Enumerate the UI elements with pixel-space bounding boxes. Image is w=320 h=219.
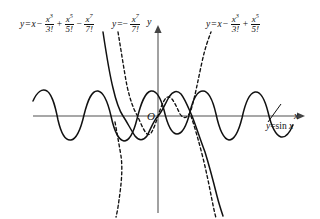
label-taylor7-op2: +: [57, 20, 62, 30]
label-taylor5-op2: +: [243, 20, 248, 30]
frac-denominator: 7!: [84, 24, 94, 34]
label-taylor5-op1: −: [223, 20, 228, 30]
frac-denominator: 7!: [130, 24, 140, 34]
y-axis-arrow: [154, 25, 161, 33]
label-taylor7-op3: −: [77, 20, 82, 30]
label-taylor7: y = x − x3 3! + x5 5! − x7 7!: [20, 14, 95, 35]
label-taylor5: y = x − x3 3! + x5 5!: [206, 14, 262, 35]
sine-label-leader: [268, 104, 281, 122]
frac-exponent: 7: [136, 12, 139, 19]
frac-exponent: 3: [50, 12, 53, 19]
frac-denominator: 3!: [231, 24, 241, 34]
frac-numerator: x7: [85, 15, 94, 24]
label-taylor7-term1: x: [32, 20, 36, 30]
frac-exponent: 5: [70, 12, 73, 19]
label-taylor7-lhs: y: [20, 20, 24, 30]
label-taylor7-frac1: x3 3!: [45, 15, 55, 35]
origin-label: O: [147, 110, 155, 122]
taylor-series-figure: y = x − x3 3! + x5 5! − x7 7! y =−: [0, 0, 320, 219]
label-taylor7-eq: =: [25, 20, 30, 30]
frac-numerator: x7: [131, 15, 140, 24]
label-term-frac: x7 7!: [130, 15, 140, 35]
label-taylor7-op1: −: [37, 20, 42, 30]
frac-denominator: 5!: [65, 24, 75, 34]
label-taylor5-term1: x: [218, 20, 222, 30]
y-axis-label: y: [147, 16, 151, 27]
label-term-eq: =−: [117, 20, 128, 30]
frac-exponent: 3: [236, 12, 239, 19]
frac-exponent: 5: [256, 12, 259, 19]
taylor5-curve: [118, 32, 211, 135]
label-taylor7-frac3: x7 7!: [84, 15, 94, 35]
frac-numerator: x3: [231, 15, 240, 24]
frac-denominator: 3!: [45, 24, 55, 34]
label-taylor5-frac2: x5 5!: [251, 15, 261, 35]
frac-numerator: x5: [65, 15, 74, 24]
label-taylor5-eq: =: [211, 20, 216, 30]
label-sine-var: x: [289, 121, 293, 131]
frac-exponent: 7: [90, 12, 93, 19]
label-taylor5-lhs: y: [206, 20, 210, 30]
label-taylor7-frac2: x5 5!: [65, 15, 75, 35]
frac-numerator: x3: [45, 15, 54, 24]
frac-denominator: 5!: [251, 24, 261, 34]
label-taylor5-frac1: x3 3!: [231, 15, 241, 35]
frac-numerator: x5: [251, 15, 260, 24]
label-term-lhs: y: [112, 20, 116, 30]
label-sine-rhs: sin: [276, 121, 287, 131]
label-taylor7-term: y =− x7 7!: [112, 14, 141, 35]
x-axis-label: x: [294, 110, 298, 121]
label-sine: y=sin x: [266, 122, 293, 132]
taylor5-lower-tail: [191, 116, 216, 218]
